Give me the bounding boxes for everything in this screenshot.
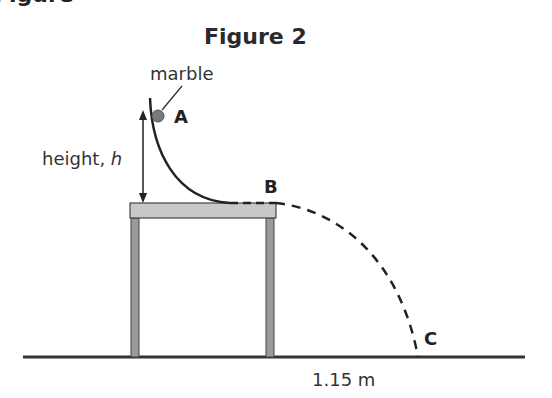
height-label: height, h — [42, 148, 122, 169]
point-a-label: A — [174, 106, 188, 127]
height-variable: h — [111, 148, 122, 169]
point-c-label: C — [424, 328, 437, 349]
height-arrow-head-bottom — [139, 193, 147, 203]
point-b-label: B — [264, 176, 278, 197]
marble-ball — [152, 110, 164, 122]
marble-label: marble — [150, 63, 213, 84]
table-leg-left — [131, 218, 139, 357]
table-leg-right — [266, 218, 274, 357]
trajectory-dashed — [276, 203, 418, 357]
distance-label: 1.15 m — [312, 369, 375, 390]
table-top — [130, 203, 276, 218]
height-label-text: height, — [42, 148, 111, 169]
height-arrow-head-top — [139, 110, 147, 120]
diagram-canvas — [0, 0, 552, 398]
